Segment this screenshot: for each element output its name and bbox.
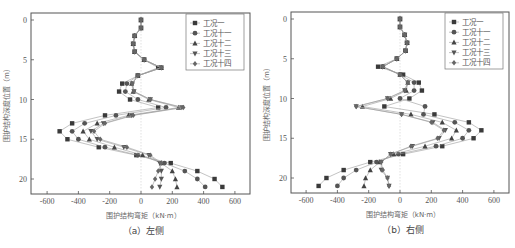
legend-label: 工况一: [462, 18, 484, 27]
data-point: [120, 81, 124, 85]
data-point: [125, 81, 130, 86]
data-point: [354, 168, 359, 173]
data-point: [103, 145, 108, 150]
y-tick-label: 20: [279, 174, 287, 183]
figure: -600-400-200020040060005101520围护结构弯矩（kN·…: [0, 0, 515, 248]
data-point: [82, 121, 87, 126]
data-point: [220, 185, 224, 189]
legend-label: 工况十二: [462, 37, 491, 47]
data-point: [80, 129, 85, 134]
y-tick-label: 5: [23, 56, 27, 65]
data-point: [174, 184, 179, 189]
data-point: [182, 169, 187, 174]
data-point: [117, 89, 121, 93]
x-tick-label: 0: [139, 197, 143, 206]
legend-label: 工况十四: [462, 57, 490, 67]
data-point: [153, 176, 157, 181]
data-point: [195, 177, 200, 182]
x-tick-label: 400: [457, 196, 469, 205]
data-point: [159, 177, 164, 182]
data-point: [421, 112, 426, 117]
data-point: [412, 88, 417, 93]
data-point: [479, 128, 483, 132]
x-tick-label: -200: [361, 196, 376, 205]
legend-label: 工况一: [203, 19, 225, 28]
data-point: [128, 97, 132, 101]
x-tick-label: 200: [166, 197, 178, 206]
data-point: [466, 128, 471, 133]
y-tick-label: 10: [279, 95, 287, 104]
data-point: [114, 113, 119, 118]
data-point: [135, 97, 140, 102]
data-point: [65, 137, 69, 141]
x-tick-label: -400: [330, 196, 345, 205]
legend-label: 工况十四: [203, 58, 231, 68]
data-point: [449, 135, 454, 140]
chart-left: -600-400-200020040060005101520围护结构弯矩（kN·…: [2, 13, 250, 236]
x-tick-label: 400: [198, 197, 210, 206]
legend-label: 工况十三: [203, 48, 231, 58]
series-line: [72, 20, 205, 187]
data-point: [434, 144, 439, 149]
data-point: [123, 89, 128, 94]
x-tick-label: 0: [398, 196, 402, 205]
legend-marker: [452, 20, 456, 24]
data-point: [70, 129, 75, 134]
x-tick-label: 600: [229, 197, 241, 206]
legend-marker: [193, 31, 198, 36]
data-point: [335, 184, 340, 189]
data-point: [471, 136, 475, 140]
y-tick-label: 15: [19, 135, 27, 144]
data-point: [361, 183, 366, 188]
data-point: [170, 168, 175, 173]
data-point: [368, 167, 373, 172]
y-tick-label: 0: [283, 15, 287, 24]
data-point: [203, 185, 208, 190]
data-point: [341, 176, 346, 181]
data-point: [432, 112, 436, 116]
data-point: [57, 129, 61, 133]
legend: 工况一工况十一工况十二工况十三工况十四: [186, 14, 244, 70]
data-point: [157, 185, 162, 190]
y-axis-title: 围护结构深度位置（m）: [2, 65, 11, 142]
x-axis-title: 围护结构弯矩（kN·m）: [366, 210, 440, 219]
x-tick-label: -600: [40, 197, 55, 206]
y-tick-label: 0: [23, 16, 27, 25]
x-tick-label: 600: [488, 196, 500, 205]
x-tick-label: -400: [71, 197, 86, 206]
legend-label: 工况十二: [203, 38, 232, 48]
x-tick-label: 200: [425, 196, 437, 205]
data-point: [316, 184, 320, 188]
data-point: [412, 80, 417, 85]
chart-right: -600-400-200020040060005101520围护结构弯矩（kN·…: [262, 12, 509, 235]
data-point: [454, 128, 459, 133]
data-point: [452, 120, 457, 125]
data-point: [341, 168, 345, 172]
data-point: [195, 169, 199, 173]
figure-caption: （b）右侧: [382, 224, 424, 235]
legend-label: 工况十一: [462, 27, 491, 37]
data-point: [417, 80, 421, 84]
data-point: [376, 65, 380, 69]
data-point: [460, 136, 465, 141]
x-tick-label: -600: [299, 196, 314, 205]
data-point: [150, 184, 154, 189]
legend: 工况一工况十一工况十二工况十三工况十四: [445, 13, 503, 69]
data-point: [212, 177, 216, 181]
data-point: [467, 120, 471, 124]
data-point: [398, 96, 403, 101]
data-point: [103, 113, 107, 117]
y-tick-label: 20: [19, 175, 27, 184]
legend-label: 工况十三: [462, 47, 490, 57]
figure-caption: （a）左侧: [123, 225, 165, 236]
legend-label: 工况十一: [203, 28, 232, 38]
y-axis-title: 围护结构深度位置（m）: [262, 64, 271, 141]
data-point: [76, 137, 81, 142]
y-tick-label: 15: [279, 134, 287, 143]
data-point: [173, 176, 178, 181]
data-point: [420, 88, 424, 92]
y-tick-label: 10: [19, 96, 27, 105]
y-tick-label: 5: [283, 55, 287, 64]
legend-marker: [193, 21, 197, 25]
data-point: [382, 104, 386, 108]
